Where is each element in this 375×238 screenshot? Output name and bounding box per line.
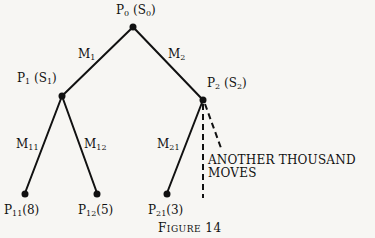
dashed-edge-diagonal	[205, 104, 221, 148]
node-label-p2: P2 (S2)	[207, 77, 247, 91]
node-label-p1: P1 (S1)	[17, 72, 57, 86]
note-line-2: MOVES	[208, 167, 356, 180]
edge-label-m21: M21	[157, 138, 179, 152]
node-p1	[59, 93, 66, 100]
edge-label-m2: M2	[168, 48, 185, 62]
node-label-p12: P12(5)	[78, 204, 113, 218]
node-p0	[130, 24, 137, 31]
node-label-p0: P0 (S0)	[116, 4, 156, 18]
figure-caption: FIGURE 14	[158, 221, 222, 235]
edge-label-m1: M1	[78, 48, 95, 62]
node-label-p11: P11(8)	[4, 204, 39, 218]
edge-m2	[133, 27, 203, 100]
edge-m1	[62, 27, 133, 96]
node-p11	[22, 191, 29, 198]
another-thousand-moves-note: ANOTHER THOUSAND MOVES	[208, 154, 356, 180]
node-p2	[200, 97, 207, 104]
edge-label-m12: M12	[84, 138, 106, 152]
node-label-p21: P21(3)	[148, 204, 183, 218]
node-p12	[94, 191, 101, 198]
edge-label-m11: M11	[16, 138, 38, 152]
game-tree-diagram	[0, 0, 375, 238]
node-p21	[164, 191, 171, 198]
